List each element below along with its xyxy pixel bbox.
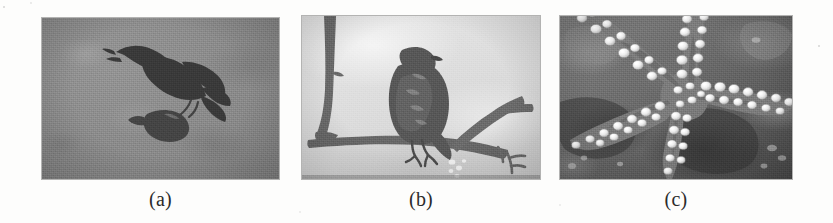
panel-a-caption-label: (a): [42, 184, 279, 214]
figure-panel-b: [302, 16, 540, 179]
figure-panel-c: [560, 16, 792, 179]
panel-b-perched-bird-on-branch-illustration: [302, 16, 540, 179]
figure-container: (a) (b) (c): [0, 0, 833, 223]
panel-c-starfish-illustration: [560, 16, 792, 179]
figure-panel-a: [42, 18, 279, 179]
panel-a-bird-with-prey-illustration: [42, 18, 279, 179]
panel-c-caption-label: (c): [560, 184, 792, 214]
panel-b-caption-label: (b): [302, 184, 540, 214]
